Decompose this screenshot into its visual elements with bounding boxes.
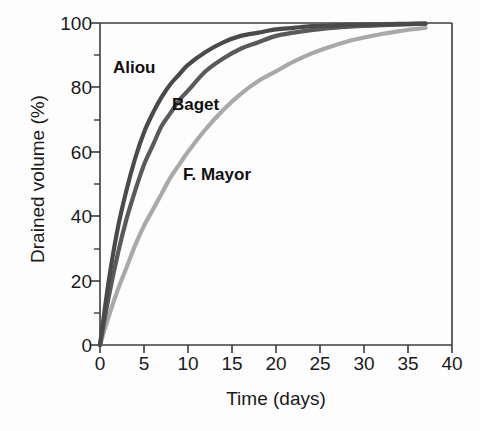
plot-area [0, 0, 480, 431]
y-minor-ticks [94, 55, 100, 313]
series-label-baget: Baget [172, 95, 219, 115]
chart-figure: Drained volume (%) 100 80 60 40 20 0 0 5… [0, 0, 480, 431]
x-major-ticks [100, 345, 452, 353]
series-label-aliou: Aliou [113, 58, 156, 78]
series-label-f-mayor: F. Mayor [183, 165, 251, 185]
